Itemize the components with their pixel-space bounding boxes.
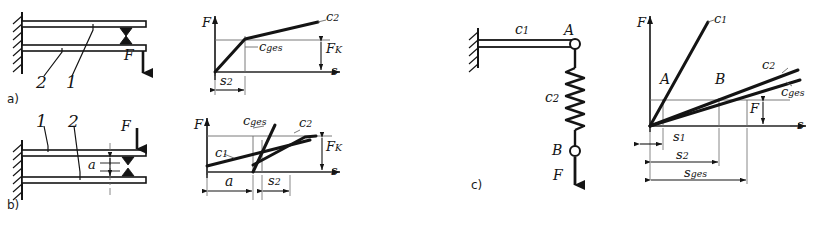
label-beam-c1-sub: 1 (523, 25, 529, 36)
node-B (570, 146, 580, 156)
chart-b-s2-sub: 2 (275, 176, 281, 187)
chart-b-ylabel: F (194, 118, 203, 131)
chart-a-dim-label-FK: FK (326, 42, 342, 55)
chart-c-s2-base: s (676, 147, 683, 162)
chart-a-cges-sub: ges (266, 42, 282, 53)
chart-c-c2-leader (782, 68, 788, 73)
leaf-spring-1-a (22, 21, 146, 27)
chart-c-marker-B: B (715, 72, 725, 86)
panel-b-sketch (13, 126, 146, 200)
label-node-A: A (564, 23, 574, 37)
label-beam-c1-base: c (515, 21, 523, 37)
chart-c-s2-sub: 2 (683, 150, 689, 161)
chart-b-xlabel: s (331, 164, 338, 177)
chart-b-c2-leader (294, 130, 300, 133)
coil-spring-c2 (566, 68, 584, 130)
chart-b-dim-label-FK: FK (326, 140, 342, 153)
chart-b-c1-sub: 1 (222, 148, 228, 159)
label-force-c: F (553, 168, 563, 182)
chart-b-s2-base: s (268, 173, 275, 188)
label-spring-1-b: 1 (36, 113, 47, 130)
chart-b-series-cges: cges (243, 114, 267, 127)
chart-a-series-cges: cges (259, 40, 283, 53)
label-spring-c2: c2 (545, 90, 559, 104)
node-A (570, 39, 580, 49)
chart-c-xlabel: s (797, 118, 804, 131)
label-spring-c2-sub: 2 (553, 93, 559, 104)
panel-a-sketch (13, 12, 146, 76)
label-force-a: F (124, 48, 134, 62)
chart-c-dim-label-s1: s1 (673, 130, 686, 143)
chart-c-series-c2: c2 (762, 58, 775, 71)
chart-a-graphics (215, 16, 340, 95)
chart-c-point-B (719, 104, 720, 105)
chart-b-cges-sub: ges (250, 116, 266, 127)
bowtie-coupling-a (120, 28, 132, 44)
chart-b-series-c1: c1 (215, 146, 228, 159)
caption-a: a) (7, 92, 19, 106)
chart-c-dim-s1 (640, 128, 663, 180)
chart-c-sges-base: s (684, 165, 691, 180)
label-gap-a-b: a (88, 158, 96, 171)
leaf-spring-2-b (22, 177, 146, 183)
chart-b-dim-label-s2: s2 (268, 174, 281, 187)
chart-b-c2-sub: 2 (306, 118, 312, 129)
figure-canvas: 2 1 F a) F s cges c2 s2 FK 1 2 a F b) F … (0, 0, 825, 226)
chart-a-FK-base: F (326, 41, 335, 56)
chart-a-dim-label-s2: s2 (220, 74, 233, 87)
chart-a-xlabel: s (331, 64, 338, 77)
chart-c-c1-sub: 1 (721, 14, 727, 25)
beam-c1 (478, 40, 572, 47)
label-spring-2-b: 2 (68, 113, 79, 130)
label-spring-2-a: 2 (36, 74, 47, 91)
chart-c-c2-sub: 2 (769, 60, 775, 71)
chart-c-ylabel: F (637, 16, 646, 29)
label-spring-1-a: 1 (66, 74, 77, 91)
chart-c-graphics (640, 16, 806, 184)
chart-b-FK-sub: K (335, 142, 342, 153)
caption-c: c) (471, 178, 482, 192)
chart-c-marker-A: A (660, 72, 670, 86)
chart-c-cges-sub: ges (788, 87, 804, 98)
bowtie-coupling-b (122, 157, 134, 176)
fixed-support-hatched-c (469, 28, 478, 72)
fixed-support-hatched-a (13, 12, 22, 74)
chart-a-s2-base: s (220, 73, 227, 88)
label-force-b: F (121, 119, 131, 133)
chart-a-ylabel: F (202, 16, 211, 29)
panel-c-sketch (469, 28, 584, 185)
label-spring-c2-base: c (545, 89, 553, 105)
leaf-spring-1-b (22, 150, 146, 156)
label-beam-c1: c1 (515, 22, 529, 36)
chart-b-dim-label-a: a (225, 174, 233, 188)
chart-c-dim-label-sges: sges (684, 166, 707, 179)
chart-a-c2-sub: 2 (333, 12, 339, 23)
figure-svg (0, 0, 825, 226)
fixed-support-hatched-b (13, 140, 22, 200)
chart-c-dim-label-F: F (750, 102, 759, 115)
label-node-B: B (552, 143, 562, 157)
chart-a-series-c2: c2 (326, 10, 339, 23)
chart-a-c2-leader (318, 20, 326, 22)
chart-c-sges-sub: ges (691, 168, 707, 179)
chart-a-FK-sub: K (335, 44, 342, 55)
chart-a-s2-sub: 2 (227, 76, 233, 87)
chart-b-FK-base: F (326, 139, 335, 154)
chart-c-series-cges: cges (781, 85, 805, 98)
chart-c-dim-label-s2: s2 (676, 148, 689, 161)
chart-c-s1-base: s (673, 129, 680, 144)
caption-b: b) (7, 198, 19, 212)
chart-c-series-c1: c1 (714, 12, 727, 25)
chart-c-s1-sub: 1 (680, 132, 686, 143)
chart-b-series-c2: c2 (299, 116, 312, 129)
chart-c-point-A (663, 100, 664, 101)
